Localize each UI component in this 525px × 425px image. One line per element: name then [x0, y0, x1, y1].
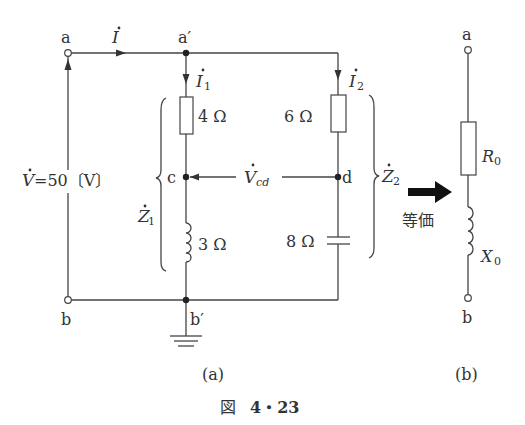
circuit-diagram: a b a′ b′ c d I I 1 I 2 V =50〔V〕 4 Ω 3 Ω… [0, 0, 525, 425]
label-z2: Z 2 [381, 164, 400, 188]
label-x1-value: 3 Ω [198, 235, 227, 254]
svg-text:4・23: 4・23 [250, 398, 299, 417]
terminal-b [65, 297, 72, 304]
figure-caption: 図 4・23 [220, 398, 299, 417]
inductor-3ohm [186, 223, 191, 262]
label-current-i1: I 1 [195, 69, 211, 93]
node-d-dot [335, 174, 341, 180]
node-b-prime-dot [183, 297, 189, 303]
svg-text:2: 2 [393, 175, 400, 188]
ground-icon [170, 336, 202, 346]
svg-text:I: I [348, 71, 356, 91]
label-current-i: I [111, 27, 120, 47]
terminal-b-equivalent [465, 295, 472, 302]
capacitor-8ohm [327, 237, 350, 244]
label-r1-value: 4 Ω [198, 107, 227, 126]
circuit-a-wires [68, 53, 338, 336]
label-xc2-value: 8 Ω [286, 232, 315, 251]
current-i1-arrow-icon [183, 74, 190, 84]
label-r2-value: 6 Ω [284, 107, 313, 126]
label-equivalent: 等価 [402, 211, 434, 230]
svg-text:cd: cd [256, 176, 269, 189]
node-a-prime-dot [183, 50, 189, 56]
node-c-dot [183, 174, 189, 180]
terminal-a-equivalent [465, 47, 472, 54]
subfigure-label-a: (a) [202, 365, 224, 384]
svg-text:1: 1 [148, 215, 155, 228]
label-z1: Z 1 [137, 205, 155, 228]
label-r0: R 0 [481, 147, 501, 168]
svg-text:X: X [479, 247, 493, 266]
source-voltage-arrow-icon [65, 59, 72, 70]
label-current-i2: I 2 [348, 69, 364, 93]
terminal-a [65, 50, 72, 57]
label-terminal-b-equivalent: b [462, 308, 472, 327]
svg-text:I: I [195, 71, 203, 91]
z1-brace [156, 98, 166, 271]
z2-brace [369, 95, 379, 258]
svg-text:2: 2 [357, 80, 364, 93]
label-terminal-b: b [61, 310, 71, 329]
svg-text:I: I [111, 27, 119, 47]
svg-text:1: 1 [204, 80, 211, 93]
inductor-x0 [468, 207, 473, 255]
label-vcd: V cd [244, 164, 269, 189]
current-i-arrow-icon [116, 50, 126, 57]
label-node-d: d [342, 168, 352, 187]
subfigure-label-b: (b) [455, 365, 478, 384]
svg-text:0: 0 [494, 155, 501, 168]
current-i2-arrow-icon [335, 70, 342, 80]
svg-text:R: R [481, 147, 494, 166]
label-node-b-prime: b′ [190, 310, 204, 329]
svg-text:=50〔V〕: =50〔V〕 [34, 171, 111, 190]
resistor-4ohm [180, 97, 193, 134]
resistor-r0 [461, 122, 476, 175]
vcd-arrow-icon [190, 174, 199, 181]
label-x0: X 0 [479, 247, 501, 268]
label-source-voltage: V =50〔V〕 [22, 169, 111, 190]
label-node-c: c [167, 168, 176, 187]
equivalent-arrow-icon [408, 181, 452, 203]
label-terminal-a-equivalent: a [462, 25, 472, 44]
svg-text:0: 0 [494, 255, 501, 268]
svg-text:図: 図 [220, 398, 236, 417]
label-terminal-a: a [61, 28, 71, 47]
resistor-6ohm [331, 95, 346, 132]
label-node-a-prime: a′ [178, 28, 192, 47]
